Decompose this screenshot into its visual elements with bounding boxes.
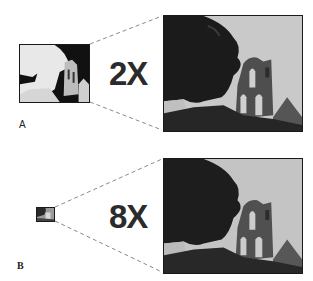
magnification-label-a: 2X [109, 57, 147, 90]
enlarged-photo-b [163, 158, 303, 274]
panel-label-a: A [19, 120, 26, 130]
thumbnail-b [36, 207, 55, 222]
panel-label-b: B [17, 261, 24, 271]
photo-thumbnail-b [37, 208, 54, 221]
magnification-label-b: 8X [109, 200, 147, 233]
projection-line-a-bottom [90, 102, 162, 130]
photo-enlarged-a [164, 16, 302, 131]
projection-line-a-top [90, 16, 162, 44]
photo-enlarged-b [164, 159, 302, 273]
thumbnail-a [19, 44, 90, 103]
photo-thumbnail-a [20, 45, 89, 102]
enlarged-photo-a [163, 15, 303, 132]
